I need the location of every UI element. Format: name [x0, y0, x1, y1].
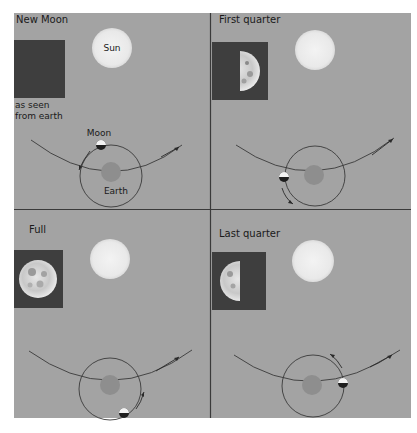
earth-icon: [101, 162, 121, 182]
panel-title: First quarter: [219, 14, 281, 25]
earth-label: Earth: [104, 186, 128, 196]
caption-line2: from earth: [15, 111, 63, 121]
moon-icon: [96, 140, 106, 150]
sun-icon: [295, 30, 335, 70]
moon-label: Moon: [87, 128, 111, 138]
earth-icon: [100, 375, 120, 395]
sun-icon: [90, 239, 130, 279]
moon-icon: [279, 172, 289, 182]
moon-icon: [338, 378, 348, 388]
panel-title: New Moon: [16, 14, 68, 25]
earth-icon: [302, 375, 322, 395]
earth-icon: [304, 165, 324, 185]
panel-title: Full: [29, 224, 46, 235]
view-from-earth-square: [14, 40, 65, 98]
sun-icon: [292, 240, 334, 282]
full-moon-image: [19, 260, 57, 298]
panel-title: Last quarter: [219, 228, 281, 239]
moon-phases-diagram: New Moon Sun as seen from earth Moon Ear…: [0, 0, 417, 433]
caption-line1: as seen: [15, 100, 50, 110]
sun-label: Sun: [103, 43, 120, 53]
moon-icon: [119, 408, 129, 418]
